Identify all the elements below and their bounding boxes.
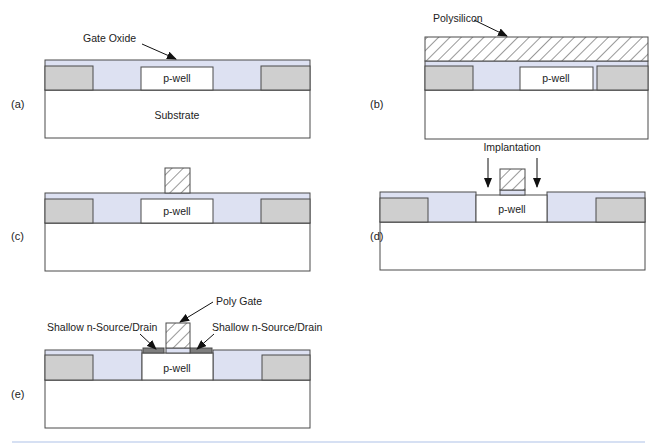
panel-d: p-well (d) Implantation <box>370 141 645 270</box>
source-drain-left-annotation: Shallow n-Source/Drain <box>47 321 157 333</box>
substrate <box>45 223 310 271</box>
gate-oxide-annotation: Gate Oxide <box>83 32 136 44</box>
isolation-right <box>262 355 310 380</box>
poly-gate-arrow <box>180 302 213 322</box>
polysilicon-layer <box>425 37 648 61</box>
source-drain-left-arrow <box>140 334 156 349</box>
cmos-process-diagram: p-well Substrate (a) Gate Oxide p-well (… <box>0 0 658 443</box>
panel-b: p-well (b) Polysilicon <box>370 12 648 139</box>
substrate <box>380 222 645 270</box>
p-well-label: p-well <box>163 362 190 374</box>
isolation-left <box>45 66 93 90</box>
isolation-right <box>261 66 310 90</box>
source-drain-left <box>143 348 164 353</box>
source-drain-right-arrow <box>197 334 214 349</box>
p-well-label: p-well <box>498 203 525 215</box>
gate-oxide-under-gate <box>500 190 525 195</box>
panel-label-c: (c) <box>11 230 24 242</box>
poly-gate <box>165 168 190 193</box>
substrate-label: Substrate <box>155 109 200 121</box>
isolation-left <box>425 66 473 90</box>
poly-gate <box>166 323 190 348</box>
isolation-left <box>380 198 428 222</box>
panel-c: p-well (c) <box>11 168 310 271</box>
gate-oxide-arrow <box>142 44 176 59</box>
isolation-right <box>597 66 648 90</box>
panel-label-a: (a) <box>11 98 24 110</box>
isolation-left <box>45 199 93 223</box>
polysilicon-annotation: Polysilicon <box>433 12 483 24</box>
gate-oxide-under-gate <box>166 348 190 353</box>
p-well-label: p-well <box>163 205 190 217</box>
panel-label-d: (d) <box>370 230 383 242</box>
p-well-label: p-well <box>163 72 190 84</box>
panel-label-b: (b) <box>370 98 383 110</box>
panel-e: p-well (e) Poly Gate Shallow n-Source/Dr… <box>11 295 322 428</box>
polysilicon-arrow <box>474 20 507 36</box>
implantation-annotation: Implantation <box>483 141 540 153</box>
isolation-left <box>45 355 93 380</box>
poly-gate <box>500 169 525 190</box>
isolation-right <box>261 199 310 223</box>
poly-gate-annotation: Poly Gate <box>216 295 262 307</box>
panel-a: p-well Substrate (a) Gate Oxide <box>11 32 310 138</box>
p-well-label: p-well <box>542 72 569 84</box>
substrate <box>425 90 648 139</box>
substrate <box>45 380 310 428</box>
isolation-right <box>596 198 645 222</box>
source-drain-right-annotation: Shallow n-Source/Drain <box>212 321 322 333</box>
panel-label-e: (e) <box>11 388 24 400</box>
source-drain-right <box>190 348 212 353</box>
